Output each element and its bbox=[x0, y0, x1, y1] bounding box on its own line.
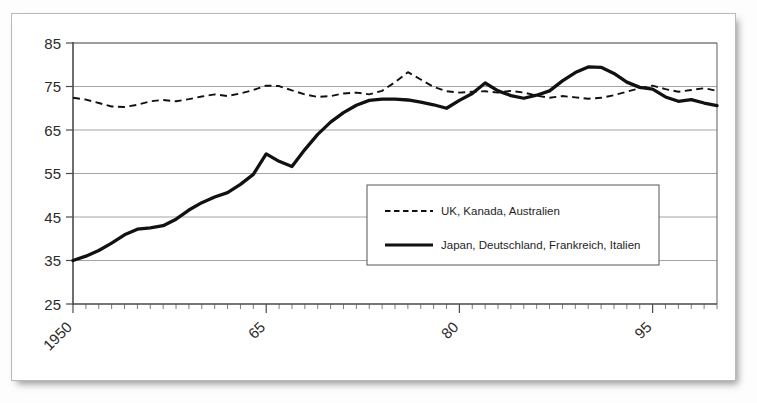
x-axis-ticks bbox=[73, 304, 717, 313]
chart-page: 25354555657585 1950658095 UK, Kanada, Au… bbox=[11, 13, 736, 381]
line-chart: 25354555657585 1950658095 UK, Kanada, Au… bbox=[12, 14, 735, 380]
y-axis-tick-label: 85 bbox=[44, 35, 61, 52]
y-axis-ticks bbox=[66, 43, 73, 304]
legend-label: UK, Kanada, Australien bbox=[441, 205, 560, 217]
chart-legend: UK, Kanada, AustralienJapan, Deutschland… bbox=[367, 185, 659, 265]
x-axis-tick-label: 95 bbox=[631, 318, 655, 342]
y-axis-tick-labels: 25354555657585 bbox=[44, 35, 61, 313]
scanned-page-background: 25354555657585 1950658095 UK, Kanada, Au… bbox=[0, 0, 757, 403]
y-axis-tick-label: 35 bbox=[44, 252, 61, 269]
legend-label: Japan, Deutschland, Frankreich, Italien bbox=[441, 239, 640, 251]
y-axis-tick-label: 75 bbox=[44, 78, 61, 95]
y-axis-tick-label: 55 bbox=[44, 165, 61, 182]
chart-svg: 25354555657585 1950658095 UK, Kanada, Au… bbox=[12, 14, 735, 380]
legend-box bbox=[367, 185, 659, 265]
y-axis-tick-label: 65 bbox=[44, 122, 61, 139]
y-axis-tick-label: 45 bbox=[44, 209, 61, 226]
x-axis-tick-label: 65 bbox=[245, 318, 269, 342]
y-axis-tick-label: 25 bbox=[44, 296, 61, 313]
x-axis-tick-labels: 1950658095 bbox=[40, 318, 655, 354]
x-axis-tick-label: 1950 bbox=[40, 318, 76, 354]
x-axis-tick-label: 80 bbox=[438, 318, 462, 342]
